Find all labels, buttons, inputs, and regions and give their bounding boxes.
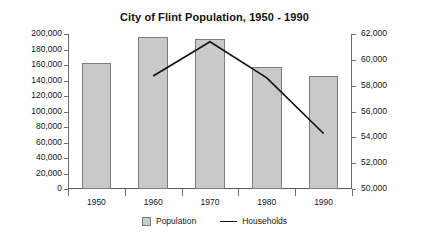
x-tick-1 [125, 189, 126, 196]
y-tick-left-label: 80,000 [0, 122, 62, 131]
y-tick-left-label: 60,000 [0, 138, 62, 147]
legend-item-households: Households [220, 216, 287, 226]
y-tick-left-label: 20,000 [0, 169, 62, 178]
y-tick-left-label: 180,000 [0, 45, 62, 54]
x-axis-label-1970: 1970 [182, 197, 239, 207]
y-tick-left-label: 40,000 [0, 153, 62, 162]
y-tick-right-label: 62,000 [361, 29, 387, 38]
y-tick-left-label: 120,000 [0, 91, 62, 100]
x-axis-label-1950: 1950 [68, 197, 125, 207]
y-tick-left-label: 140,000 [0, 76, 62, 85]
y-tick-right-label: 52,000 [361, 158, 387, 167]
x-axis-label-1960: 1960 [125, 197, 182, 207]
legend-item-population: Population [142, 216, 196, 226]
y-tick-right-label: 54,000 [361, 132, 387, 141]
chart-container: City of Flint Population, 1950 - 1990 02… [0, 0, 429, 240]
x-tick-3 [238, 189, 239, 196]
bar-swatch-icon [142, 217, 151, 226]
legend-label-population: Population [156, 216, 196, 226]
x-tick-5 [352, 189, 353, 196]
y-tick-left-label: 100,000 [0, 107, 62, 116]
y-tick-right-label: 58,000 [361, 81, 387, 90]
line-swatch-icon [220, 221, 237, 222]
line-series-households [68, 34, 352, 189]
x-axis-label-1980: 1980 [238, 197, 295, 207]
y-tick-left-label: 160,000 [0, 60, 62, 69]
legend-label-households: Households [242, 216, 287, 226]
x-tick-2 [182, 189, 183, 196]
y-tick-right-label: 60,000 [361, 55, 387, 64]
x-tick-4 [295, 189, 296, 196]
chart-legend: Population Households [0, 216, 429, 226]
y-tick-right-label: 56,000 [361, 107, 387, 116]
y-tick-left-label: 200,000 [0, 29, 62, 38]
y-tick-left-label: 0 [0, 184, 62, 193]
x-axis-label-1990: 1990 [295, 197, 352, 207]
plot-area [68, 34, 352, 189]
x-tick-0 [68, 189, 69, 196]
chart-title: City of Flint Population, 1950 - 1990 [0, 11, 429, 23]
y-tick-right-label: 50,000 [361, 184, 387, 193]
